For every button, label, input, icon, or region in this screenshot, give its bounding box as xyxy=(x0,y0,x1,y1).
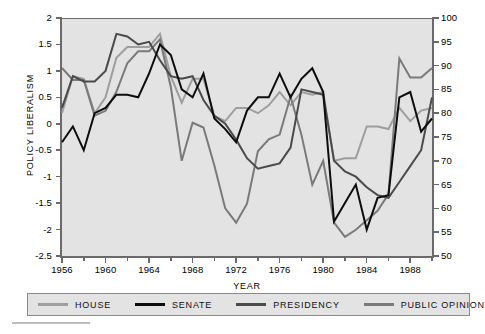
chart-page: 21.510.50-0.5-1-1.5-2-2.5100959085807570… xyxy=(0,0,485,334)
legend-label: SENATE xyxy=(172,300,212,310)
legend-label: PUBLIC OPINION xyxy=(401,300,485,310)
legend-item-house[interactable]: HOUSE xyxy=(28,294,111,315)
series-line-house xyxy=(62,34,432,161)
legend-label: PRESIDENCY xyxy=(273,300,340,310)
legend-swatch-icon xyxy=(135,303,165,306)
series-line-public-opinion xyxy=(62,39,432,237)
chart-legend: HOUSESENATEPRESIDENCYPUBLIC OPINION xyxy=(27,293,470,316)
page-footer-rule xyxy=(12,322,90,324)
legend-label: HOUSE xyxy=(75,300,111,310)
legend-item-public-opinion[interactable]: PUBLIC OPINION xyxy=(354,294,485,315)
x-axis-title: YEAR xyxy=(62,281,432,291)
legend-item-presidency[interactable]: PRESIDENCY xyxy=(226,294,340,315)
legend-item-senate[interactable]: SENATE xyxy=(125,294,212,315)
y-axis-left-title: POLICY LIBERALISM xyxy=(25,40,35,210)
legend-swatch-icon xyxy=(364,303,394,306)
legend-swatch-icon xyxy=(236,303,266,306)
series-line-presidency xyxy=(62,34,432,198)
legend-swatch-icon xyxy=(38,303,68,306)
